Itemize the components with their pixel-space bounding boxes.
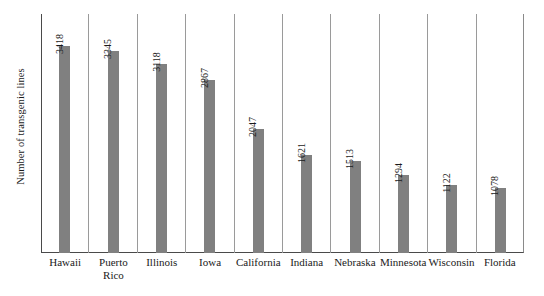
bar-value-label: 2047 (248, 117, 258, 137)
bar[interactable]: 1078 (495, 188, 506, 253)
x-axis-labels: Hawaii Puerto Rico Illinois Iowa Califor… (41, 256, 524, 282)
bar-value-label: 1513 (345, 149, 355, 169)
y-axis-title: Number of transgenic lines (0, 0, 40, 253)
bar[interactable]: 3345 (108, 51, 119, 253)
x-axis-label: Indiana (282, 256, 330, 282)
x-axis-label: Puerto Rico (89, 256, 137, 282)
bar-column[interactable]: 1078 (477, 14, 524, 253)
x-axis-label: Florida (476, 256, 524, 282)
x-axis-label: Illinois (138, 256, 186, 282)
bar-value-label: 1122 (442, 173, 452, 193)
bar[interactable]: 1122 (446, 185, 457, 253)
bar-value-label: 3345 (103, 39, 113, 59)
x-axis-label: Minnesota (379, 256, 427, 282)
bar-column[interactable]: 3418 (41, 14, 89, 253)
x-axis-label: Iowa (186, 256, 234, 282)
bar-value-label: 3418 (55, 34, 65, 54)
bar[interactable]: 2047 (253, 129, 264, 253)
bar-column[interactable]: 1621 (283, 14, 331, 253)
bar[interactable]: 1513 (350, 161, 361, 253)
x-axis-label: Hawaii (41, 256, 89, 282)
bar[interactable]: 3118 (156, 64, 167, 253)
bar-value-label: 2867 (200, 68, 210, 88)
bar-column[interactable]: 1294 (380, 14, 428, 253)
bar[interactable]: 1294 (398, 175, 409, 253)
x-axis-label: Wisconsin (427, 256, 475, 282)
bar[interactable]: 1621 (301, 155, 312, 253)
bar-value-label: 1621 (297, 143, 307, 163)
bar-column[interactable]: 2047 (235, 14, 283, 253)
bar-column[interactable]: 3345 (89, 14, 137, 253)
bar-column[interactable]: 1513 (331, 14, 379, 253)
bar-value-label: 1294 (394, 163, 404, 183)
bar-column[interactable]: 1122 (428, 14, 476, 253)
x-axis-label: Nebraska (331, 256, 379, 282)
bar[interactable]: 3418 (59, 46, 70, 253)
bar-columns: 3418 3345 3118 2867 2047 1621 (41, 14, 524, 253)
bar-column[interactable]: 3118 (138, 14, 186, 253)
x-axis-label: California (234, 256, 282, 282)
bar-column[interactable]: 2867 (186, 14, 234, 253)
bar-chart-figure: Number of transgenic lines 3418 3345 311… (0, 0, 544, 296)
bar-value-label: 1078 (490, 176, 500, 196)
bar[interactable]: 2867 (204, 80, 215, 253)
bar-value-label: 3118 (152, 53, 162, 73)
y-axis-title-text: Number of transgenic lines (15, 68, 26, 185)
